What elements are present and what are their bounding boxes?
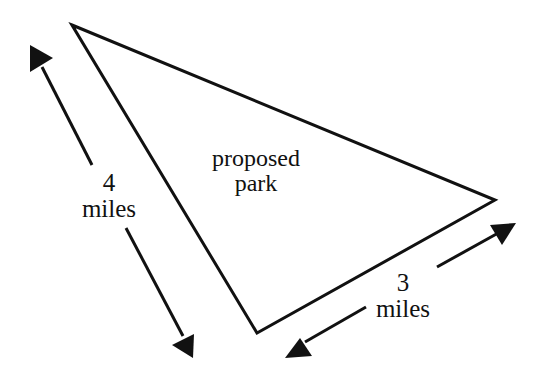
left-side-label: 4 miles — [64, 170, 154, 223]
bottom-side-unit: miles — [358, 296, 448, 322]
region-label-line1: proposed — [196, 146, 316, 171]
region-label: proposed park — [196, 146, 316, 196]
region-label-line2: park — [196, 171, 316, 196]
left-side-unit: miles — [64, 196, 154, 222]
bottom-side-value: 3 — [358, 270, 448, 296]
bottom-side-label: 3 miles — [358, 270, 448, 323]
arrowhead-down-icon — [172, 334, 194, 358]
left-side-value: 4 — [64, 170, 154, 196]
diagram: proposed park 4 miles 3 miles — [0, 0, 542, 386]
